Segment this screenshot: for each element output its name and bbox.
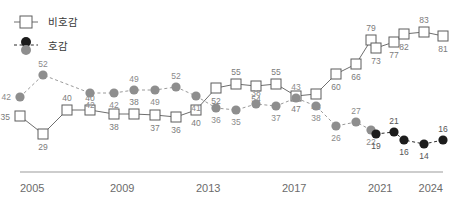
- data-point-marker[interactable]: [109, 109, 119, 119]
- data-point-marker[interactable]: [191, 91, 200, 100]
- favorability-trend-chart: 비호감 호감 352940403838373640525554554748606…: [0, 0, 463, 201]
- x-axis-tick-label: 2021: [368, 182, 392, 194]
- data-point-marker[interactable]: [438, 31, 448, 41]
- data-point-label: 42: [2, 92, 12, 102]
- data-point-label: 37: [271, 113, 281, 123]
- data-point-marker[interactable]: [399, 135, 408, 144]
- data-point-label: 36: [211, 115, 221, 125]
- data-point-marker[interactable]: [38, 129, 48, 139]
- x-axis-tick-label: 2024: [419, 182, 443, 194]
- data-point-label: 43: [291, 82, 301, 92]
- data-point-marker[interactable]: [351, 117, 360, 126]
- x-axis-tick-label: 2005: [20, 182, 44, 194]
- legend-item-unfavorable: 비호감: [14, 16, 78, 28]
- series-unfavorable: 3529404038383736405255545547486066797377…: [1, 15, 448, 152]
- data-point-label: 42: [109, 100, 119, 110]
- data-point-label: 66: [351, 72, 361, 82]
- data-point-label: 14: [419, 151, 429, 161]
- x-axis-tick-label: 2013: [196, 182, 220, 194]
- data-point-label: 16: [438, 124, 448, 134]
- chart-canvas: 비호감 호감 352940403838373640525554554748606…: [0, 0, 463, 201]
- data-point-marker[interactable]: [129, 109, 139, 119]
- data-point-marker[interactable]: [171, 82, 180, 91]
- data-point-label: 26: [331, 133, 341, 143]
- data-point-label: 41: [191, 103, 201, 113]
- data-point-label: 40: [62, 93, 72, 103]
- data-point-marker[interactable]: [211, 103, 220, 112]
- data-point-label: 19: [371, 141, 381, 151]
- data-point-label: 49: [150, 97, 160, 107]
- data-point-marker[interactable]: [129, 85, 138, 94]
- data-point-marker[interactable]: [271, 101, 280, 110]
- data-point-label: 77: [389, 50, 399, 60]
- data-point-marker[interactable]: [311, 101, 320, 110]
- data-point-label: 38: [251, 88, 261, 98]
- data-point-marker[interactable]: [291, 93, 300, 102]
- data-point-marker[interactable]: [231, 79, 241, 89]
- data-point-marker[interactable]: [171, 112, 181, 122]
- data-point-label: 38: [129, 97, 139, 107]
- data-point-label: 37: [150, 123, 160, 133]
- data-point-label: 36: [171, 125, 181, 135]
- plot-area: 3529404038383736405255545547486066797377…: [1, 15, 448, 161]
- data-point-marker[interactable]: [211, 83, 221, 93]
- legend-marker-filled-circle-gray-icon: [21, 45, 31, 55]
- data-point-label: 49: [129, 74, 139, 84]
- data-point-marker[interactable]: [419, 139, 428, 148]
- data-point-label: 60: [331, 82, 341, 92]
- series-line: [376, 132, 443, 144]
- data-point-marker[interactable]: [231, 105, 240, 114]
- data-point-marker[interactable]: [389, 37, 399, 47]
- data-point-marker[interactable]: [150, 85, 159, 94]
- data-point-marker[interactable]: [351, 59, 361, 69]
- data-point-marker[interactable]: [251, 99, 260, 108]
- data-point-label: 52: [171, 71, 181, 81]
- data-point-label: 55: [231, 67, 241, 77]
- data-point-marker[interactable]: [62, 105, 72, 115]
- data-point-marker[interactable]: [331, 121, 340, 130]
- x-axis-tick-labels: 200520092013201720212024: [20, 182, 443, 194]
- data-point-label: 52: [38, 59, 48, 69]
- data-point-marker[interactable]: [109, 88, 118, 97]
- data-point-marker[interactable]: [389, 127, 398, 136]
- data-point-marker[interactable]: [399, 29, 409, 39]
- data-point-marker[interactable]: [371, 43, 381, 53]
- data-point-label: 16: [399, 147, 409, 157]
- data-point-label: 38: [109, 122, 119, 132]
- x-axis-tick-label: 2009: [110, 182, 134, 194]
- data-point-marker[interactable]: [311, 89, 321, 99]
- data-point-marker[interactable]: [371, 129, 380, 138]
- data-point-marker[interactable]: [150, 110, 160, 120]
- data-point-marker[interactable]: [331, 69, 341, 79]
- data-point-label: 21: [389, 116, 399, 126]
- data-point-label: 47: [291, 104, 301, 114]
- data-point-label: 29: [38, 142, 48, 152]
- data-point-marker[interactable]: [271, 79, 281, 89]
- legend-label-unfavorable: 비호감: [48, 16, 78, 28]
- data-point-label: 82: [399, 42, 409, 52]
- chart-legend: 비호감 호감: [14, 16, 78, 55]
- data-point-label: 83: [419, 15, 429, 25]
- data-point-marker[interactable]: [419, 27, 429, 37]
- data-point-marker[interactable]: [438, 135, 447, 144]
- legend-label-favorable: 호감: [48, 40, 68, 52]
- data-point-marker[interactable]: [15, 111, 25, 121]
- legend-item-favorable: 호감: [14, 37, 68, 55]
- series-favorable-late: 1921161416: [371, 116, 448, 161]
- data-point-label: 40: [191, 118, 201, 128]
- data-point-label: 81: [438, 44, 448, 54]
- data-point-marker[interactable]: [85, 88, 94, 97]
- legend-marker-open-square-icon: [20, 16, 32, 28]
- data-point-marker[interactable]: [38, 70, 47, 79]
- data-point-label: 42: [85, 100, 95, 110]
- data-point-label: 55: [271, 67, 281, 77]
- data-point-label: 79: [366, 23, 376, 33]
- data-point-label: 38: [311, 113, 321, 123]
- x-axis-tick-label: 2017: [282, 182, 306, 194]
- data-point-label: 35: [231, 117, 241, 127]
- data-point-marker[interactable]: [15, 92, 24, 101]
- data-point-label: 27: [351, 106, 361, 116]
- data-point-label: 73: [371, 56, 381, 66]
- data-point-label: 35: [1, 112, 11, 122]
